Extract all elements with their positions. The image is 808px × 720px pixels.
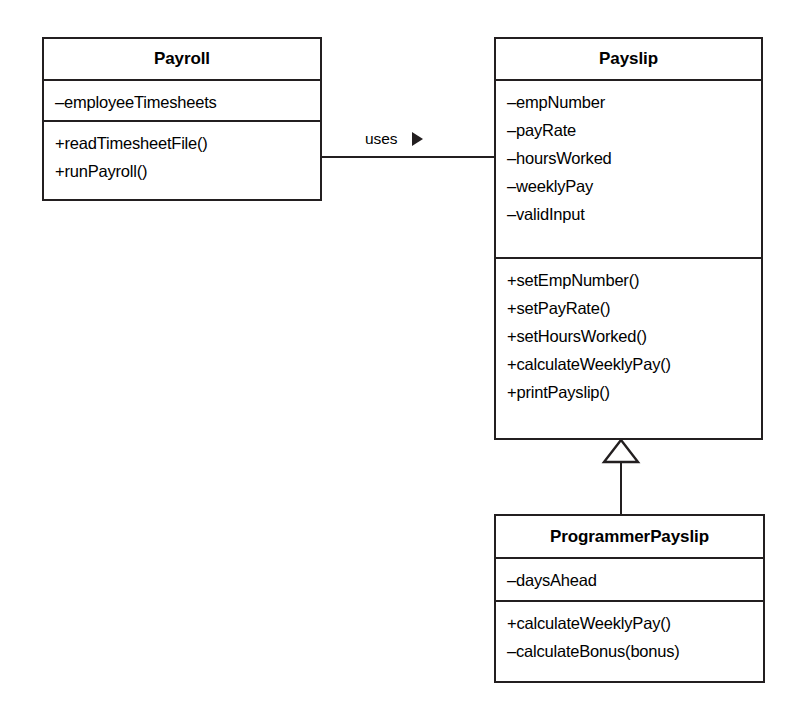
uml-diagram-canvas: Payroll –employeeTimesheets +readTimeshe… xyxy=(0,0,808,720)
inheritance-line xyxy=(620,461,622,514)
class-box-payroll[interactable]: Payroll –employeeTimesheets +readTimeshe… xyxy=(42,37,322,201)
methods-compartment-payslip: +setEmpNumber() +setPayRate() +setHoursW… xyxy=(496,257,761,438)
method-item: +readTimesheetFile() xyxy=(55,129,320,157)
association-line-uses xyxy=(322,156,494,158)
method-item: +setPayRate() xyxy=(507,294,761,322)
class-name-payslip: Payslip xyxy=(496,39,761,81)
attribute-item: –daysAhead xyxy=(507,566,763,594)
attribute-item: –validInput xyxy=(507,200,761,228)
attribute-item: –employeeTimesheets xyxy=(55,88,320,116)
class-name-programmerpayslip: ProgrammerPayslip xyxy=(496,516,763,559)
association-direction-arrow-icon xyxy=(412,132,423,146)
method-item: +calculateWeeklyPay() xyxy=(507,609,763,637)
class-box-payslip[interactable]: Payslip –empNumber –payRate –hoursWorked… xyxy=(494,37,763,440)
method-item: +setEmpNumber() xyxy=(507,266,761,294)
class-box-programmerpayslip[interactable]: ProgrammerPayslip –daysAhead +calculateW… xyxy=(494,514,765,683)
method-item: +setHoursWorked() xyxy=(507,322,761,350)
attribute-item: –empNumber xyxy=(507,88,761,116)
attribute-item: –hoursWorked xyxy=(507,144,761,172)
class-name-payroll: Payroll xyxy=(44,39,320,81)
attributes-compartment-programmerpayslip: –daysAhead xyxy=(496,559,763,600)
association-label-uses: uses xyxy=(365,130,397,148)
method-item: –calculateBonus(bonus) xyxy=(507,637,763,665)
attribute-item: –weeklyPay xyxy=(507,172,761,200)
methods-compartment-programmerpayslip: +calculateWeeklyPay() –calculateBonus(bo… xyxy=(496,600,763,683)
method-item: +printPayslip() xyxy=(507,378,761,406)
attribute-item: –payRate xyxy=(507,116,761,144)
method-item: +runPayroll() xyxy=(55,157,320,185)
attributes-compartment-payroll: –employeeTimesheets xyxy=(44,81,320,120)
methods-compartment-payroll: +readTimesheetFile() +runPayroll() xyxy=(44,120,320,199)
method-item: +calculateWeeklyPay() xyxy=(507,350,761,378)
attributes-compartment-payslip: –empNumber –payRate –hoursWorked –weekly… xyxy=(496,81,761,257)
